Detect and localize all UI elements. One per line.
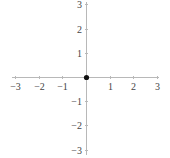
x-tick-label: 2 [131, 81, 136, 92]
coordinate-plane-chart: −3−2−1123 −3−2−1123 [0, 0, 170, 158]
x-tick-label: −3 [10, 81, 21, 92]
origin-point-marker [84, 75, 89, 80]
x-tick-label: 3 [155, 81, 160, 92]
data-points [84, 75, 89, 80]
y-tick-label: 1 [77, 48, 82, 59]
y-tick-label: 2 [77, 24, 82, 35]
x-tick-label: −1 [57, 81, 68, 92]
y-tick-label: −3 [71, 145, 82, 156]
y-tick-label: −1 [71, 96, 82, 107]
y-tick-label: −2 [71, 120, 82, 131]
x-tick-label: 1 [108, 81, 113, 92]
x-tick-label: −2 [34, 81, 45, 92]
y-tick-label: 3 [77, 0, 82, 10]
